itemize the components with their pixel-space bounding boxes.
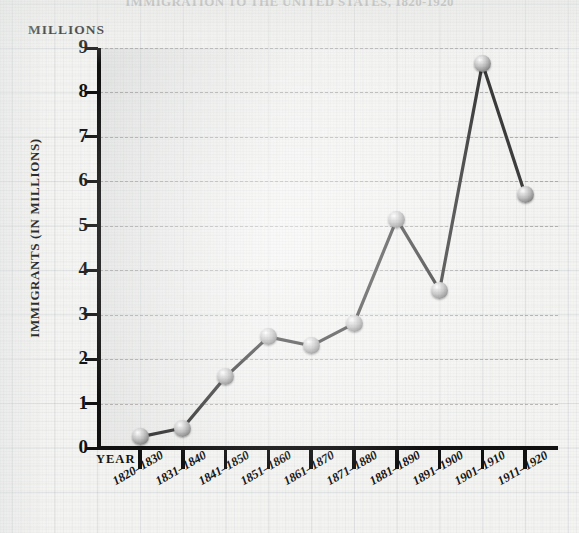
y-tick-label-0: 0 [54,437,88,456]
data-point-9 [517,186,534,203]
gridline-2 [100,359,558,360]
gridline-9 [100,48,558,49]
data-point-4 [303,337,320,354]
gridline-3 [100,315,558,316]
data-point-8 [474,55,491,72]
y-tick-label-5: 5 [54,215,88,234]
gridline-8 [100,92,558,93]
y-tick-label-6: 6 [54,170,88,189]
y-tick-label-9: 9 [54,37,88,56]
y-axis-unit-header: MILLIONS [28,22,105,38]
y-tick-label-2: 2 [54,348,88,367]
y-tick-label-8: 8 [54,81,88,100]
gridline-7 [100,137,558,138]
gridline-4 [100,270,558,271]
gridline-5 [100,226,558,227]
gridline-1 [100,404,558,405]
y-tick-label-1: 1 [54,393,88,412]
data-point-1 [174,420,191,437]
data-point-0 [132,428,149,445]
data-point-6 [388,211,405,228]
data-point-7 [431,282,448,299]
chart-title: IMMIGRATION TO THE UNITED STATES, 1820-1… [0,0,579,10]
y-tick-label-4: 4 [54,259,88,278]
y-tick-label-3: 3 [54,304,88,323]
gridline-6 [100,181,558,182]
y-axis-line [97,48,101,448]
y-axis-title: IMMIGRANTS (IN MILLIONS) [27,123,43,353]
y-tick-label-7: 7 [54,126,88,145]
data-point-5 [346,315,363,332]
